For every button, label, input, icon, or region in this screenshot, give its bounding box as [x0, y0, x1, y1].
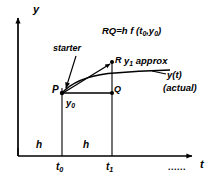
axis-label-y: y: [33, 4, 39, 15]
leader-line-yt: [152, 71, 166, 74]
step-label-h-second: h: [83, 140, 89, 150]
annotation-y-of-t: y(t): [167, 70, 182, 80]
formula-rq: RQ=h f (t0,y0): [102, 26, 161, 37]
y0-sub: 0: [71, 102, 75, 109]
annotation-actual: (actual): [163, 83, 197, 93]
step-label-h-first: h: [36, 140, 42, 150]
point-label-P: P: [52, 85, 59, 95]
formula-part-head: RQ=h f (t: [102, 25, 142, 36]
annotation-starter: starter: [53, 44, 81, 53]
y1-approx-rest: approx: [133, 55, 167, 66]
euler-method-diagram: y t RQ=h f (t0,y0) starter P Q R y1 appr…: [0, 0, 211, 181]
formula-part-mid: ,y: [146, 25, 154, 36]
value-label-y0: y0: [66, 98, 75, 109]
axis-ellipsis: ......: [168, 163, 186, 172]
t0-sub: 0: [59, 165, 63, 174]
annotation-y1-approx: y1 approx: [124, 56, 167, 67]
formula-part-end: ): [158, 25, 161, 36]
point-label-R: R: [115, 56, 122, 65]
point-label-Q: Q: [114, 85, 121, 94]
point-P-marker: [60, 91, 64, 95]
tick-label-t0: t0: [56, 162, 63, 173]
t1-sub: 1: [109, 165, 113, 174]
tick-label-t1: t1: [106, 162, 113, 173]
axis-label-t: t: [200, 159, 204, 170]
point-R-marker: [110, 60, 114, 64]
